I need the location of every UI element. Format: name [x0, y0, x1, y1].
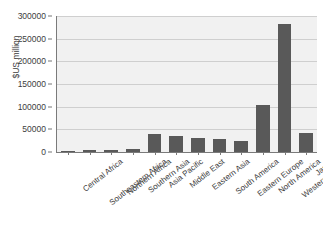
- x-tick-label: Northern Africa: [125, 157, 173, 197]
- x-tick-label: Western Europe: [300, 157, 323, 200]
- plot-area: [56, 16, 317, 153]
- y-tick-mark: [48, 16, 52, 17]
- y-tick-label: 300000: [18, 11, 46, 21]
- x-tick-label: South America: [234, 157, 281, 196]
- x-tick-label: Asia Pacific: [166, 157, 204, 190]
- bar: [278, 24, 291, 152]
- y-tick-label: 150000: [18, 79, 46, 89]
- y-tick-mark: [48, 38, 52, 39]
- bar: [148, 134, 161, 152]
- bar: [191, 138, 204, 152]
- bar: [256, 105, 269, 152]
- bar: [213, 139, 226, 152]
- y-tick-label: 200000: [18, 56, 46, 66]
- bar-chart: $US million 0500001000001500002000002500…: [0, 0, 323, 228]
- y-tick-mark: [48, 152, 52, 153]
- x-tick-mark: [155, 152, 156, 155]
- y-tick-label: 0: [41, 147, 46, 157]
- x-tick-label: North America: [277, 157, 322, 195]
- bar: [299, 133, 312, 152]
- x-tick-mark: [263, 152, 264, 155]
- bar: [234, 141, 247, 152]
- y-tick-mark: [48, 106, 52, 107]
- x-tick-mark: [198, 152, 199, 155]
- horizontal-scrollbar-track[interactable]: [0, 218, 323, 227]
- y-tick-label: 100000: [18, 102, 46, 112]
- x-tick-mark: [241, 152, 242, 155]
- y-tick-mark: [48, 61, 52, 62]
- bars-layer: [57, 16, 317, 152]
- x-tick-label: Southern Asia: [146, 157, 191, 195]
- x-tick-label: Southeastern Africa: [107, 157, 168, 207]
- x-tick-mark: [68, 152, 69, 155]
- x-tick-label: Eastern Europe: [256, 157, 305, 198]
- x-tick-mark: [285, 152, 286, 155]
- x-tick-mark: [90, 152, 91, 155]
- x-tick-label: Japan: [314, 157, 323, 178]
- x-tick-label: Central Africa: [81, 157, 124, 194]
- y-tick-mark: [48, 84, 52, 85]
- y-tick-mark: [48, 129, 52, 130]
- x-tick-label: Middle East: [188, 157, 226, 190]
- y-axis-ticks: 050000100000150000200000250000300000: [0, 0, 52, 228]
- x-tick-label: Eastern Asia: [210, 157, 251, 192]
- x-tick-mark: [176, 152, 177, 155]
- x-tick-mark: [111, 152, 112, 155]
- x-tick-mark: [306, 152, 307, 155]
- y-tick-label: 50000: [22, 124, 46, 134]
- x-tick-mark: [133, 152, 134, 155]
- x-tick-mark: [220, 152, 221, 155]
- y-tick-label: 250000: [18, 34, 46, 44]
- bar: [169, 136, 182, 152]
